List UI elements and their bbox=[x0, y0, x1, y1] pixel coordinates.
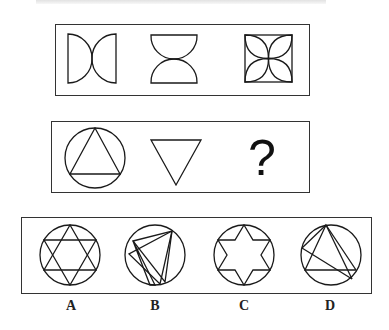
option-c-label[interactable]: C bbox=[234, 298, 254, 314]
option-a-figure[interactable] bbox=[40, 225, 100, 285]
option-b-figure[interactable] bbox=[125, 225, 185, 285]
option-c-figure[interactable] bbox=[214, 225, 274, 285]
option-figures bbox=[0, 0, 389, 330]
option-d-label[interactable]: D bbox=[320, 298, 340, 314]
option-a-label[interactable]: A bbox=[61, 298, 81, 314]
option-b-label[interactable]: B bbox=[145, 298, 165, 314]
option-d-figure[interactable] bbox=[301, 225, 361, 285]
